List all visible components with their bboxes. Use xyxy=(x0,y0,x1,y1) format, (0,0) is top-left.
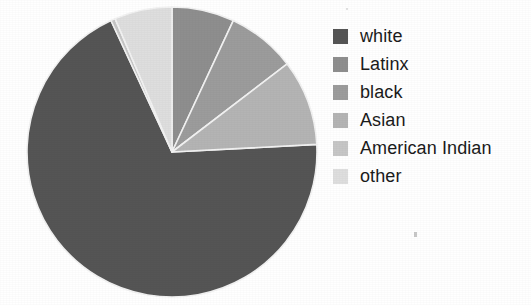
legend-label-white: white xyxy=(360,26,403,46)
legend-item-black[interactable]: black xyxy=(333,78,529,106)
legend-item-other[interactable]: other xyxy=(333,162,529,190)
pie-slices-group xyxy=(27,7,317,297)
pie-plot-area xyxy=(0,0,330,305)
legend-swatch-white-icon xyxy=(333,29,348,44)
scan-speck xyxy=(414,232,417,237)
legend-item-american-indian[interactable]: American Indian xyxy=(333,134,529,162)
legend-swatch-american-indian-icon xyxy=(333,141,348,156)
legend-label-black: black xyxy=(360,82,403,102)
legend-label-latinx: Latinx xyxy=(360,54,409,74)
legend-swatch-latinx-icon xyxy=(333,57,348,72)
legend-item-latinx[interactable]: Latinx xyxy=(333,50,529,78)
legend-item-asian[interactable]: Asian xyxy=(333,106,529,134)
legend-item-white[interactable]: white xyxy=(333,22,529,50)
legend-label-american-indian: American Indian xyxy=(360,138,492,158)
legend-label-asian: Asian xyxy=(360,110,406,130)
legend-label-other: other xyxy=(360,166,402,186)
chart-legend: white Latinx black Asian American Indian… xyxy=(333,22,529,190)
legend-swatch-asian-icon xyxy=(333,113,348,128)
legend-swatch-other-icon xyxy=(333,169,348,184)
pie-chart-figure: white Latinx black Asian American Indian… xyxy=(0,0,531,305)
legend-swatch-black-icon xyxy=(333,85,348,100)
scan-speck xyxy=(346,8,348,10)
pie-svg xyxy=(0,0,330,305)
